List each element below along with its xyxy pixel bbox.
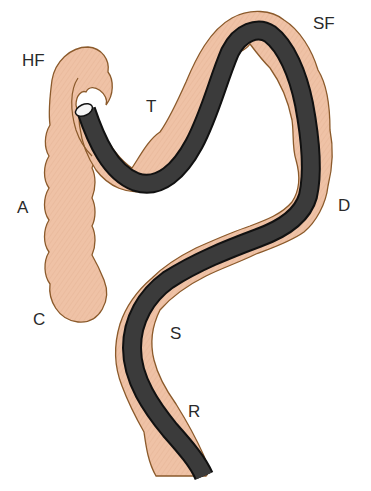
label-splenic-flexure: SF — [313, 15, 335, 32]
colonoscopy-diagram — [0, 0, 371, 491]
label-ascending: A — [17, 199, 28, 216]
label-rectum: R — [188, 403, 200, 420]
label-hepatic-flexure: HF — [22, 52, 45, 69]
label-descending: D — [338, 197, 350, 214]
label-sigmoid: S — [170, 325, 181, 342]
ascending-colon — [45, 47, 113, 322]
label-cecum: C — [33, 311, 45, 328]
label-transverse: T — [146, 98, 156, 115]
